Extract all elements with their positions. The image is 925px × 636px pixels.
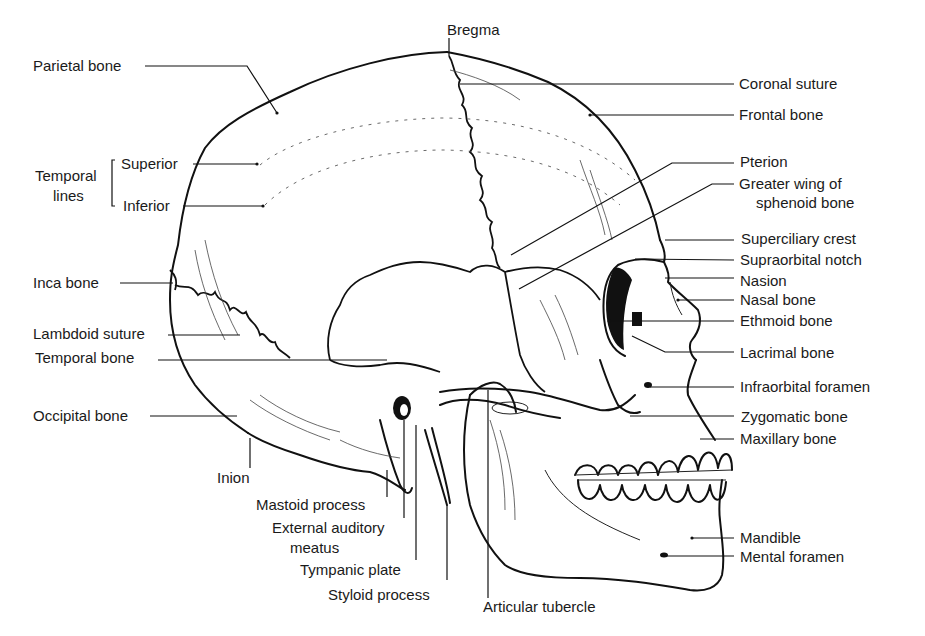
mandible-outline: [464, 395, 723, 590]
label-zygomatic-bone: Zygomatic bone: [741, 408, 848, 425]
label-temporal-lines-1: Temporal: [35, 167, 97, 184]
squamous-suture-line: [328, 262, 505, 360]
label-superciliary-crest: Superciliary crest: [741, 230, 857, 247]
label-greater-wing-2: sphenoid bone: [756, 194, 854, 211]
mastoid-outline: [380, 420, 412, 493]
label-greater-wing-1: Greater wing of: [739, 175, 842, 192]
label-ethmoid-bone: Ethmoid bone: [740, 312, 833, 329]
label-superior: Superior: [121, 155, 178, 172]
lambdoid-suture-line: [175, 285, 290, 358]
label-lambdoid-suture: Lambdoid suture: [33, 325, 145, 342]
upper-teeth: [575, 452, 732, 475]
label-infraorbital-foramen: Infraorbital foramen: [740, 378, 870, 395]
orbit-shading: [606, 268, 632, 350]
label-external-auditory-meatus-2: meatus: [290, 539, 339, 556]
label-styloid-process: Styloid process: [328, 586, 430, 603]
label-temporal-bone: Temporal bone: [35, 349, 134, 366]
label-supraorbital-notch: Supraorbital notch: [740, 251, 862, 268]
label-pterion: Pterion: [740, 153, 788, 170]
label-maxillary-bone: Maxillary bone: [740, 430, 837, 447]
occipital-base: [248, 433, 405, 490]
label-bregma: Bregma: [447, 21, 500, 38]
label-lacrimal-bone: Lacrimal bone: [740, 344, 834, 361]
skull-illustration: Bregma Parietal bone Coronal suture Fron…: [0, 0, 925, 636]
labels: Bregma Parietal bone Coronal suture Fron…: [33, 21, 870, 615]
label-parietal-bone: Parietal bone: [33, 57, 121, 74]
cranium-outline: [170, 52, 447, 433]
nasal-profile: [664, 262, 700, 360]
coronal-suture-line: [449, 56, 500, 268]
skull-diagram: Bregma Parietal bone Coronal suture Fron…: [0, 0, 925, 636]
label-tympanic-plate: Tympanic plate: [300, 561, 401, 578]
label-mandible: Mandible: [740, 529, 801, 546]
label-nasal-bone: Nasal bone: [740, 291, 816, 308]
label-occipital-bone: Occipital bone: [33, 407, 128, 424]
label-temporal-lines-2: lines: [53, 187, 84, 204]
label-frontal-bone: Frontal bone: [739, 106, 823, 123]
label-mastoid-process: Mastoid process: [256, 496, 365, 513]
label-nasion: Nasion: [740, 272, 787, 289]
frontal-outline: [447, 52, 660, 240]
label-mental-foramen: Mental foramen: [740, 548, 844, 565]
label-inion: Inion: [217, 469, 250, 486]
label-inferior: Inferior: [123, 197, 170, 214]
styloid-shape: [425, 428, 450, 505]
label-coronal-suture: Coronal suture: [739, 75, 837, 92]
label-external-auditory-meatus-1: External auditory: [272, 519, 385, 536]
maxilla-outline: [688, 360, 715, 440]
label-inca-bone: Inca bone: [33, 274, 99, 291]
lower-teeth: [578, 480, 726, 502]
label-articular-tubercle: Articular tubercle: [483, 598, 596, 615]
